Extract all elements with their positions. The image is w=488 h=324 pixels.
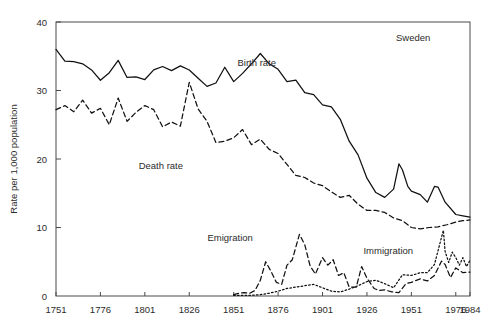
population-rate-line-chart: 1751177618011826185118761901192619511976… [0,0,488,324]
x-tick-label: 1984 [459,304,480,315]
annotation-sweden: Sweden [396,32,430,43]
x-tick-label: 1851 [223,304,244,315]
x-tick-label: 1776 [90,304,111,315]
x-tick-label: 1901 [312,304,333,315]
x-tick-label: 1876 [268,304,289,315]
y-tick-label: 10 [36,222,47,233]
y-tick-label: 0 [42,291,47,302]
y-tick-label: 30 [36,85,47,96]
annotation-death-rate: Death rate [139,160,183,171]
chart-figure: 1751177618011826185118761901192619511976… [0,0,488,324]
annotation-emigration: Emigration [207,232,252,243]
chart-background [0,0,488,324]
y-axis-title: Rate per 1,000 population [8,104,19,213]
y-tick-label: 20 [36,154,47,165]
annotation-immigration: Immigration [363,245,413,256]
x-tick-label: 1951 [401,304,422,315]
x-tick-label: 1751 [45,304,66,315]
annotation-birth-rate: Birth rate [238,57,277,68]
x-tick-label: 1926 [356,304,377,315]
x-tick-label: 1826 [179,304,200,315]
x-tick-label: 1801 [134,304,155,315]
y-tick-label: 40 [36,17,47,28]
